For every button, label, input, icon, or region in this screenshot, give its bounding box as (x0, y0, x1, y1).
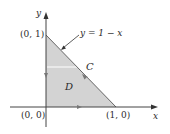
curve-label: y = 1 − x (80, 29, 122, 38)
vertex-label-0-1: (0, 1) (20, 30, 44, 39)
vertex-label-1-0: (1, 0) (106, 111, 130, 120)
diagram: y x (0, 1) (0, 0) (1, 0) y = 1 − x C D (0, 0, 170, 134)
x-axis-arrowhead-icon (151, 105, 158, 110)
region-label-d: D (65, 82, 73, 92)
y-axis-arrowhead-icon (44, 12, 49, 19)
boundary-label-c: C (86, 62, 94, 72)
vertex-label-0-0: (0, 0) (21, 111, 45, 120)
y-axis-label: y (36, 9, 41, 18)
curve-label-pointer (63, 35, 79, 48)
x-axis-label: x (153, 112, 158, 121)
